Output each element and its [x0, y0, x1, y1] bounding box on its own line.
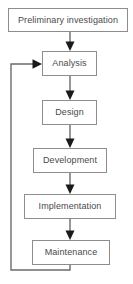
edge-preliminary-investigation-to-analysis: [66, 32, 75, 51]
arrowhead-down-icon: [66, 231, 75, 241]
arrowhead-down-icon: [66, 42, 75, 52]
node-label: Development: [43, 156, 97, 165]
node-preliminary-investigation: Preliminary investigation: [8, 8, 128, 32]
edge-implementation-to-maintenance: [66, 219, 75, 240]
node-label: Implementation: [39, 202, 102, 211]
node-development: Development: [33, 148, 107, 173]
edge-development-to-implementation: [66, 173, 75, 194]
arrowhead-down-icon: [66, 139, 75, 149]
node-label: Maintenance: [45, 248, 98, 257]
arrowhead-down-icon: [66, 91, 75, 101]
edge-analysis-to-design: [66, 76, 75, 100]
node-analysis: Analysis: [42, 51, 97, 76]
edge-design-to-development: [66, 125, 75, 148]
flowchart-diagram: Preliminary investigation Analysis Desig…: [0, 0, 133, 284]
node-label: Analysis: [52, 59, 86, 68]
node-label: Preliminary investigation: [18, 16, 118, 25]
node-design: Design: [42, 100, 97, 125]
node-maintenance: Maintenance: [32, 240, 110, 265]
node-label: Design: [55, 108, 84, 117]
arrowhead-right-icon: [33, 59, 43, 69]
arrowhead-down-icon: [66, 185, 75, 195]
node-implementation: Implementation: [24, 194, 116, 219]
